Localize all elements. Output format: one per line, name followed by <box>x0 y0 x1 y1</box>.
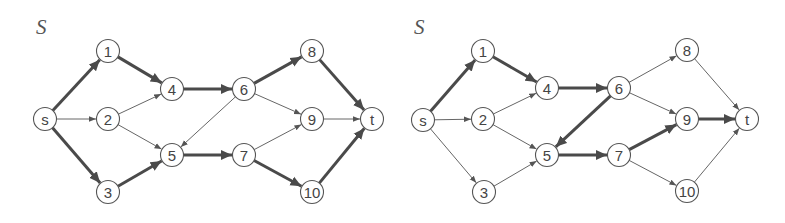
node-label: s <box>41 111 49 128</box>
node-label: 7 <box>615 147 623 164</box>
node-label: 9 <box>308 111 316 128</box>
edge-2-to-4 <box>493 93 536 114</box>
node-9: 9 <box>301 108 324 131</box>
node-3: 3 <box>97 181 120 204</box>
node-label: s <box>419 112 427 129</box>
node-10: 10 <box>301 181 324 204</box>
node-1: 1 <box>472 40 495 63</box>
node-label: 5 <box>543 147 551 164</box>
graph-left: Ss12345678910t <box>34 15 384 204</box>
node-label: 3 <box>480 184 488 201</box>
edge-10-to-t-selected <box>319 128 364 183</box>
edge-s-to-3-selected <box>53 128 101 183</box>
node-label: 1 <box>479 43 487 60</box>
graph-title: S <box>414 15 425 39</box>
edge-s-to-1-selected <box>431 60 476 111</box>
edge-1-to-4-selected <box>493 57 537 82</box>
edge-6-to-5-selected <box>556 96 611 147</box>
edge-6-to-9 <box>255 94 301 115</box>
node-t: t <box>361 108 384 131</box>
node-label: 8 <box>683 42 691 59</box>
node-10: 10 <box>676 180 699 203</box>
edge-1-to-4-selected <box>118 57 162 83</box>
edge-7-to-10 <box>629 160 676 185</box>
node-5: 5 <box>161 144 184 167</box>
edge-6-to-9 <box>629 93 676 114</box>
node-label: 2 <box>479 111 487 128</box>
edge-s-to-3 <box>430 129 476 183</box>
node-6: 6 <box>233 78 256 101</box>
edge-2-to-4 <box>118 94 161 114</box>
node-label: 10 <box>304 184 321 201</box>
node-label: 1 <box>104 43 112 60</box>
node-label: 6 <box>615 80 623 97</box>
node-label: 3 <box>104 184 112 201</box>
edge-2-to-5 <box>493 125 537 149</box>
edge-7-to-10-selected <box>254 160 301 186</box>
edge-2-to-5 <box>118 125 162 149</box>
edge-s-to-1-selected <box>53 60 100 111</box>
node-9: 9 <box>676 108 699 131</box>
node-label: 8 <box>308 43 316 60</box>
node-4: 4 <box>161 78 184 101</box>
node-4: 4 <box>536 77 559 100</box>
node-6: 6 <box>608 77 631 100</box>
node-8: 8 <box>676 39 699 62</box>
node-1: 1 <box>97 40 120 63</box>
node-label: 7 <box>240 147 248 164</box>
edge-7-to-9 <box>254 125 301 150</box>
node-2: 2 <box>472 108 495 131</box>
edge-7-to-9-selected <box>629 125 676 150</box>
node-7: 7 <box>608 144 631 167</box>
edge-6-to-8-selected <box>254 57 301 84</box>
node-s: s <box>34 108 57 131</box>
node-3: 3 <box>473 181 496 204</box>
edge-6-to-5 <box>181 97 236 147</box>
edge-3-to-5-selected <box>118 161 162 186</box>
node-label: 10 <box>679 183 696 200</box>
node-label: 4 <box>543 80 551 97</box>
node-s: s <box>412 109 435 132</box>
node-label: 2 <box>104 111 112 128</box>
node-2: 2 <box>97 108 120 131</box>
edge-3-to-5 <box>494 161 537 186</box>
edge-8-to-t <box>695 59 740 110</box>
node-label: 9 <box>683 111 691 128</box>
network-flow-diagram: Ss12345678910t Ss12345678910t <box>0 0 785 223</box>
edge-10-to-t <box>694 128 739 182</box>
node-label: 4 <box>168 81 176 98</box>
graph-right: Ss12345678910t <box>412 15 759 204</box>
edge-8-to-t-selected <box>320 60 364 110</box>
edge-s-to-2 <box>434 119 471 120</box>
edge-6-to-8 <box>629 56 676 83</box>
node-label: 5 <box>168 147 176 164</box>
node-label: 6 <box>240 81 248 98</box>
node-7: 7 <box>233 144 256 167</box>
node-t: t <box>736 108 759 131</box>
node-8: 8 <box>301 40 324 63</box>
graph-title: S <box>36 15 47 39</box>
node-5: 5 <box>536 144 559 167</box>
